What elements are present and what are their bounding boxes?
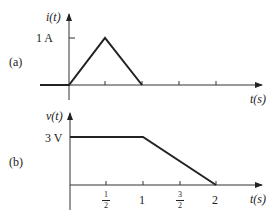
current-axis-label: i(t) [46,10,61,25]
panel-a-label: (a) [9,55,22,70]
panel-b-axes [70,113,262,210]
panel-b-label: (b) [9,155,23,170]
tick-label-half: 12 [102,191,110,210]
voltage-waveform [70,137,216,185]
time-axis-label-a: t(s) [250,92,266,107]
tick-label-two: 2 [212,193,218,208]
current-waveform [40,38,142,85]
current-peak-label: 1 A [36,31,53,46]
voltage-axis-label: v(t) [46,109,63,124]
time-axis-label-b: t(s) [250,192,266,207]
tick-label-one: 1 [139,193,145,208]
voltage-level-label: 3 V [45,131,62,146]
tick-label-three-halves: 32 [176,191,184,210]
panel-a-axes [40,14,262,100]
